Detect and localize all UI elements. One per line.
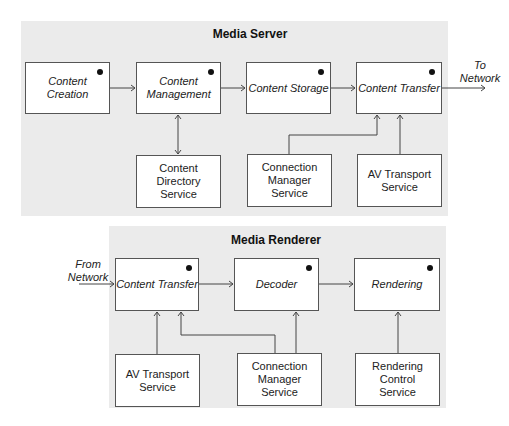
edge-connmgr-to-transfer — [181, 312, 275, 353]
connector-lines — [0, 0, 509, 426]
edge-connmgr-to-transfer — [289, 115, 377, 154]
